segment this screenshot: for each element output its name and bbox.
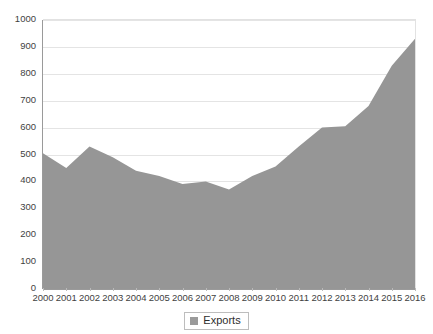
x-axis-tickmark [159, 288, 160, 291]
x-axis-tick-label: 2006 [172, 292, 193, 304]
y-axis-tick-label: 600 [0, 122, 36, 132]
x-axis-tick-label: 2008 [218, 292, 239, 304]
x-axis-tick-label: 2010 [265, 292, 286, 304]
x-axis-tick-label: 2000 [32, 292, 53, 304]
x-axis-tickmark [369, 288, 370, 291]
x-axis-tickmark [136, 288, 137, 291]
area-chart: 01002003004005006007008009001000 2000200… [0, 0, 433, 334]
x-axis-tick-label: 2012 [311, 292, 332, 304]
x-axis-tickmark [345, 288, 346, 291]
y-axis-tick-label: 700 [0, 95, 36, 105]
y-axis-tick-label: 800 [0, 68, 36, 78]
x-axis-tick-labels: 2000200120022003200420052006200720082009… [43, 292, 415, 306]
x-axis-tick-label: 2009 [242, 292, 263, 304]
x-axis-tick-label: 2014 [358, 292, 379, 304]
y-axis-tick-label: 200 [0, 229, 36, 239]
x-axis-tick-label: 2007 [195, 292, 216, 304]
y-axis-tick-label: 500 [0, 149, 36, 159]
y-axis-tick-label: 300 [0, 202, 36, 212]
x-axis-tick-label: 2016 [404, 292, 425, 304]
x-axis-tickmark [276, 288, 277, 291]
x-axis-tick-label: 2005 [149, 292, 170, 304]
x-axis-tick-label: 2003 [102, 292, 123, 304]
x-axis-tickmark [43, 288, 44, 291]
y-axis-tick-label: 0 [0, 283, 36, 293]
y-axis-tick-label: 400 [0, 175, 36, 185]
chart-legend: Exports [0, 312, 433, 330]
x-axis-tick-label: 2015 [381, 292, 402, 304]
y-axis-tick-label: 1000 [0, 14, 36, 24]
y-axis-tick-label: 900 [0, 41, 36, 51]
x-axis-tickmark [183, 288, 184, 291]
x-axis-tickmark [299, 288, 300, 291]
legend-entry-label: Exports [203, 314, 240, 327]
x-axis-tickmark [229, 288, 230, 291]
legend-swatch-icon [190, 317, 198, 325]
x-axis-tickmark [252, 288, 253, 291]
x-axis-tickmark [415, 288, 416, 291]
series-exports-area [43, 20, 415, 289]
plot-area [43, 19, 416, 289]
y-axis-tick-label: 100 [0, 256, 36, 266]
x-axis-tickmark [66, 288, 67, 291]
x-axis-tick-label: 2004 [125, 292, 146, 304]
legend-entry-exports[interactable]: Exports [184, 312, 248, 330]
x-axis-tickmark [90, 288, 91, 291]
x-axis-tick-label: 2013 [335, 292, 356, 304]
x-axis-tick-label: 2001 [56, 292, 77, 304]
x-axis-tick-label: 2002 [79, 292, 100, 304]
x-axis-tickmark [322, 288, 323, 291]
x-axis-tickmark [392, 288, 393, 291]
x-axis-tick-label: 2011 [289, 292, 309, 304]
x-axis-tickmark [206, 288, 207, 291]
x-axis-tickmark [113, 288, 114, 291]
